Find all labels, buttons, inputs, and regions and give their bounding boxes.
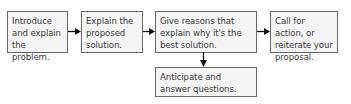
arrow-right-icon [142,27,156,36]
step-introduce-problem: Introduce and explain the problem. [7,11,68,53]
step-call-for-action: Call for action, or reiterate your propo… [270,11,338,53]
step-anticipate-questions: Anticipate and answer questions. [155,67,257,97]
step-label: Give reasons that explain why it's the b… [160,16,242,50]
step-label: Explain the proposed solution. [86,16,133,50]
step-label: Anticipate and answer questions. [160,72,236,94]
arrow-down-icon [199,52,208,68]
step-give-reasons: Give reasons that explain why it's the b… [155,11,257,53]
arrow-right-icon [67,27,82,36]
arrow-right-icon [256,27,271,36]
step-explain-solution: Explain the proposed solution. [81,11,143,53]
step-label: Call for action, or reiterate your propo… [275,16,333,62]
step-label: Introduce and explain the problem. [12,16,61,62]
